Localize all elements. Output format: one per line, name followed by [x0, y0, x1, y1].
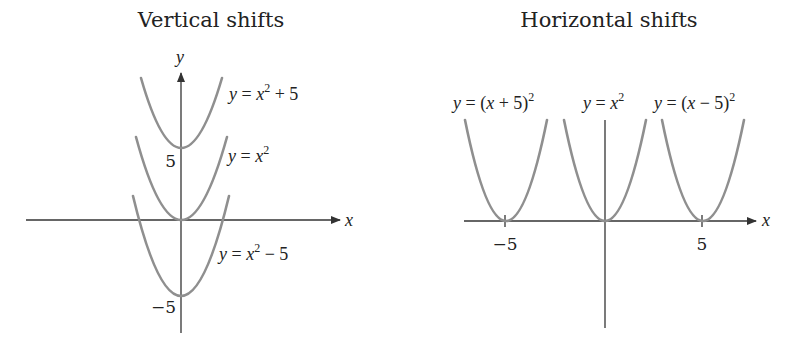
- vertical-shifts-panel: Vertical shifts x y 5 −5 y = x2 + 5 y = …: [26, 8, 353, 333]
- curve-x-plus-5-squared: [465, 120, 547, 221]
- x-axis-label: x: [761, 210, 770, 230]
- panel-title-vertical: Vertical shifts: [137, 8, 285, 32]
- label-x-minus-5-squared: y = (x − 5)2: [652, 90, 735, 114]
- x-tick-label-neg5: −5: [492, 234, 517, 254]
- y-tick-label-5: 5: [165, 151, 176, 171]
- x-tick-label-5: 5: [697, 234, 708, 254]
- curve-x-minus-5-squared: [662, 120, 744, 221]
- label-x2: y = x2: [226, 143, 269, 166]
- panel-title-horizontal: Horizontal shifts: [520, 8, 697, 32]
- shifts-diagram: Vertical shifts x y 5 −5 y = x2 + 5 y = …: [0, 0, 792, 350]
- y-axis-label: y: [174, 47, 184, 67]
- y-tick-label-neg5: −5: [151, 297, 176, 317]
- horizontal-shifts-panel: Horizontal shifts x −5 5 y = (x + 5)2 y …: [451, 8, 770, 328]
- label-x-plus-5-squared: y = (x + 5)2: [451, 90, 534, 114]
- label-x2-minus-5: y = x2 − 5: [217, 241, 288, 264]
- label-x2: y = x2: [581, 90, 624, 113]
- label-x2-plus-5: y = x2 + 5: [227, 81, 298, 104]
- x-axis-label: x: [344, 210, 353, 230]
